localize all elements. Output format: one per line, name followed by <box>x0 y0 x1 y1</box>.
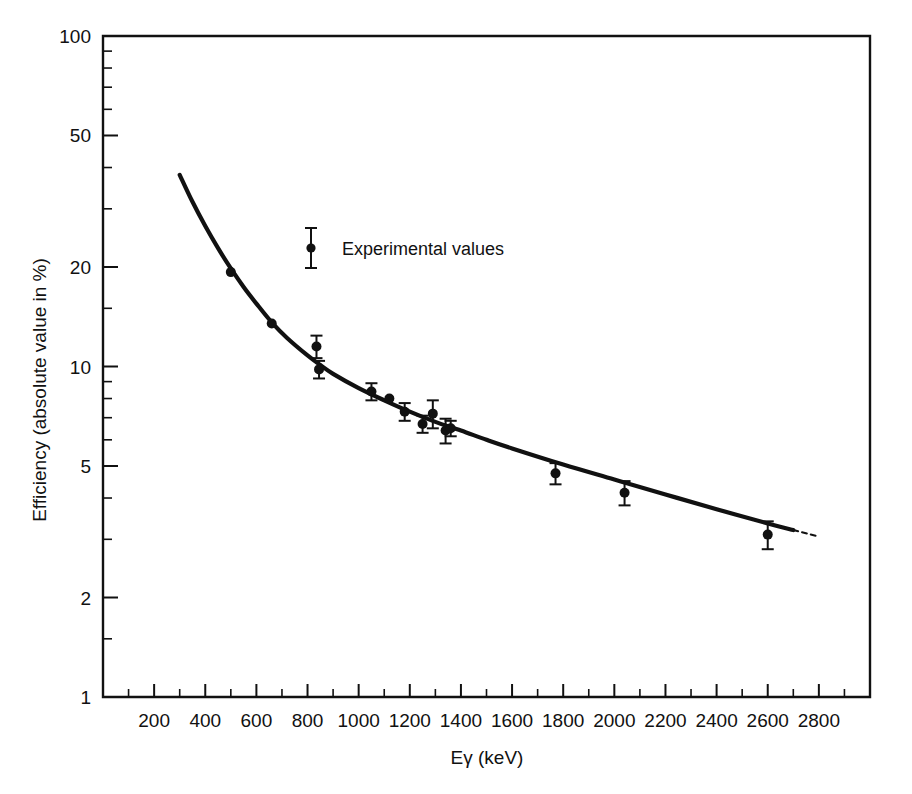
y-tick-label: 50 <box>70 125 91 146</box>
x-tick-label: 1600 <box>491 710 533 731</box>
x-tick-label: 2800 <box>798 710 840 731</box>
data-point <box>267 318 277 328</box>
x-tick-label: 2000 <box>593 710 635 731</box>
data-point-marker <box>763 530 773 540</box>
data-point <box>384 394 394 404</box>
legend: Experimental values <box>305 228 504 268</box>
y-axis-ticks <box>103 36 118 697</box>
y-tick-label: 100 <box>59 26 91 47</box>
plot-frame <box>103 36 870 697</box>
x-tick-label: 1000 <box>338 710 380 731</box>
data-point-marker <box>620 488 630 498</box>
data-point-marker <box>400 407 410 417</box>
x-axis-title: Eγ (keV) <box>451 747 524 768</box>
x-tick-label: 2200 <box>644 710 686 731</box>
data-point <box>310 336 322 359</box>
x-tick-label: 200 <box>138 710 170 731</box>
efficiency-vs-gamma-energy-plot: 2004006008001000120014001600180020002200… <box>0 0 912 794</box>
data-point <box>226 267 236 277</box>
y-tick-label: 5 <box>80 456 91 477</box>
y-tick-label: 2 <box>80 588 91 609</box>
x-tick-label: 1800 <box>542 710 584 731</box>
data-point-marker <box>314 364 324 374</box>
experimental-data-points <box>226 267 774 549</box>
x-tick-label: 1400 <box>440 710 482 731</box>
x-tick-label: 2400 <box>695 710 737 731</box>
y-axis-title: Efficiency (absolute value in %) <box>29 258 50 522</box>
data-point-marker <box>366 387 376 397</box>
data-point-marker <box>226 267 236 277</box>
data-point-marker <box>418 419 428 429</box>
y-tick-label: 10 <box>70 357 91 378</box>
efficiency-fit-line-tail <box>793 530 818 536</box>
efficiency-fit-line <box>180 175 794 530</box>
y-axis-tick-labels: 125102050100 <box>59 26 91 708</box>
x-axis-tick-labels: 2004006008001000120014001600180020002200… <box>138 710 840 731</box>
x-tick-label: 800 <box>292 710 324 731</box>
legend-marker-experimental-values <box>305 228 317 268</box>
x-tick-label: 400 <box>189 710 221 731</box>
x-tick-label: 1200 <box>389 710 431 731</box>
axes-border <box>103 36 870 697</box>
data-point-marker <box>428 409 438 419</box>
x-tick-label: 600 <box>241 710 273 731</box>
legend-label-experimental-values: Experimental values <box>342 239 504 259</box>
y-tick-label: 1 <box>80 687 91 708</box>
data-point-marker <box>384 394 394 404</box>
fitted-efficiency-curve <box>180 175 819 537</box>
y-tick-label: 20 <box>70 257 91 278</box>
data-point-marker <box>267 318 277 328</box>
data-point-marker <box>446 423 456 433</box>
data-point-marker <box>551 468 561 478</box>
data-point-marker <box>311 341 321 351</box>
efficiency-chart-figure: 2004006008001000120014001600180020002200… <box>0 0 912 794</box>
x-tick-label: 2600 <box>747 710 789 731</box>
data-point <box>550 463 562 484</box>
x-axis-ticks <box>129 684 845 697</box>
